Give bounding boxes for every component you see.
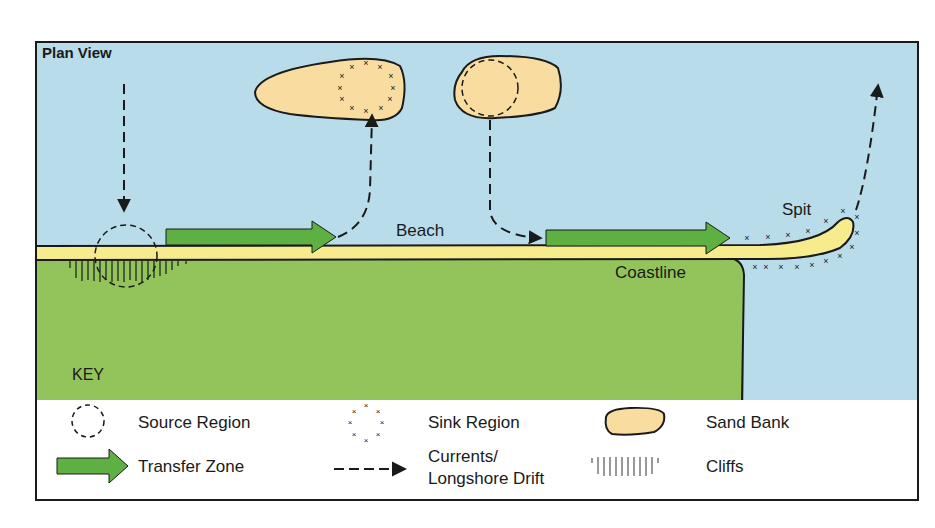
svg-text:×: × bbox=[785, 230, 790, 240]
key-label-cliffs: Cliffs bbox=[706, 457, 743, 476]
svg-text:×: × bbox=[837, 251, 842, 261]
beach-label: Beach bbox=[396, 221, 444, 240]
spit-label: Spit bbox=[782, 200, 812, 219]
svg-text:×: × bbox=[752, 262, 757, 272]
svg-text:×: × bbox=[387, 94, 392, 104]
key-label-sink-region: Sink Region bbox=[428, 413, 520, 432]
svg-text:×: × bbox=[364, 436, 369, 445]
svg-text:×: × bbox=[849, 242, 854, 252]
svg-text:×: × bbox=[380, 418, 385, 427]
svg-text:×: × bbox=[363, 106, 368, 116]
svg-text:×: × bbox=[363, 58, 368, 68]
svg-text:×: × bbox=[388, 71, 393, 81]
svg-text:×: × bbox=[778, 262, 783, 272]
key-label-currents-line2: Longshore Drift bbox=[428, 469, 545, 488]
svg-text:×: × bbox=[376, 430, 381, 439]
key-label-source-region: Source Region bbox=[138, 413, 250, 432]
svg-text:×: × bbox=[339, 71, 344, 81]
key-label-sand-bank: Sand Bank bbox=[706, 413, 790, 432]
key-label-currents-line1: Currents/ bbox=[428, 447, 498, 466]
svg-text:×: × bbox=[377, 62, 382, 72]
svg-text:×: × bbox=[854, 228, 859, 238]
svg-text:×: × bbox=[349, 62, 354, 72]
coastal-plan-view-diagram: ××× ×× ×× ×× ××× ×××× ×××× ××× ××× ×× Pl… bbox=[0, 0, 935, 528]
svg-text:×: × bbox=[765, 232, 770, 242]
svg-text:×: × bbox=[376, 407, 381, 416]
svg-text:×: × bbox=[348, 418, 353, 427]
svg-text:×: × bbox=[763, 262, 768, 272]
key-heading: KEY bbox=[72, 366, 104, 383]
svg-text:×: × bbox=[809, 260, 814, 270]
svg-text:×: × bbox=[339, 94, 344, 104]
svg-text:×: × bbox=[390, 83, 395, 93]
svg-text:×: × bbox=[823, 216, 828, 226]
sand-bank-icon bbox=[606, 408, 665, 435]
svg-text:×: × bbox=[794, 262, 799, 272]
plan-view-title: Plan View bbox=[42, 44, 112, 61]
svg-text:×: × bbox=[349, 103, 354, 113]
svg-text:×: × bbox=[854, 212, 859, 222]
svg-text:×: × bbox=[805, 226, 810, 236]
svg-text:×: × bbox=[352, 430, 357, 439]
svg-text:×: × bbox=[840, 206, 845, 216]
svg-text:×: × bbox=[823, 256, 828, 266]
coastline-label: Coastline bbox=[615, 263, 686, 282]
svg-text:×: × bbox=[378, 103, 383, 113]
svg-text:×: × bbox=[337, 83, 342, 93]
svg-text:×: × bbox=[364, 401, 369, 410]
key-label-transfer-zone: Transfer Zone bbox=[138, 457, 244, 476]
svg-text:×: × bbox=[352, 407, 357, 416]
svg-text:×: × bbox=[744, 233, 749, 243]
